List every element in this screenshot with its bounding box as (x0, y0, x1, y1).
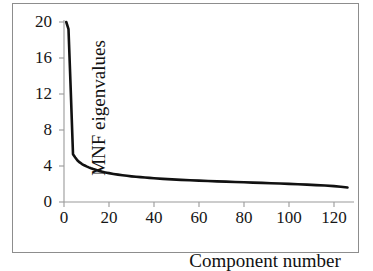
x-tick-label: 0 (39, 209, 89, 226)
x-tick-label: 60 (174, 209, 224, 226)
x-tick-label: 80 (219, 209, 269, 226)
x-tick-label: 20 (84, 209, 134, 226)
plot-area: 048121620 020406080100120 MNF eigenvalue… (64, 22, 352, 202)
x-tick-label: 40 (129, 209, 179, 226)
x-tick-label: 120 (309, 209, 359, 226)
y-tick-label: 0 (12, 193, 52, 210)
y-tick-label: 12 (12, 85, 52, 102)
y-tick-label: 16 (12, 49, 52, 66)
y-tick-label: 4 (12, 157, 52, 174)
y-axis-title: MNF eigenvalues (89, 8, 109, 208)
y-tick-label: 8 (12, 121, 52, 138)
y-tick-label: 20 (12, 13, 52, 30)
x-axis-title: Component number (120, 250, 373, 271)
x-tick-label: 100 (264, 209, 314, 226)
